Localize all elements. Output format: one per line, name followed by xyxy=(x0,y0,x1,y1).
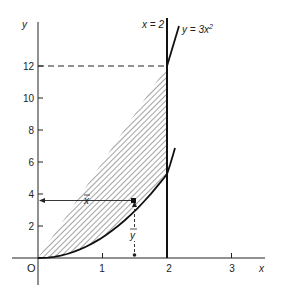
x-axis-label: x xyxy=(258,263,265,274)
tick-label-y-12: 12 xyxy=(23,61,35,72)
diagram: y x O 12 10 8 6 4 2 1 2 3 x = 2 y = 3x2 … xyxy=(0,0,283,295)
centroid-marker xyxy=(131,198,136,203)
tick-label-y-2: 2 xyxy=(28,221,34,232)
curve-label: y = 3x2 xyxy=(181,23,213,35)
shaded-region xyxy=(38,66,167,258)
xbar-arrowhead-icon xyxy=(39,198,45,203)
ybar-base-dot xyxy=(133,253,137,257)
tick-label-x-2: 2 xyxy=(166,263,172,274)
tick-label-y-10: 10 xyxy=(23,93,35,104)
tick-label-x-1: 1 xyxy=(99,263,105,274)
tick-label-y-6: 6 xyxy=(28,157,34,168)
origin-label: O xyxy=(27,262,36,274)
xbar-label: x xyxy=(83,195,90,206)
tick-label-y-4: 4 xyxy=(28,189,34,200)
line-label-x2: x = 2 xyxy=(141,19,164,30)
tick-label-x-3: 3 xyxy=(229,263,235,274)
y-ticks xyxy=(38,66,43,226)
ybar-label: y xyxy=(129,230,136,241)
tick-label-y-8: 8 xyxy=(28,125,34,136)
y-axis-label: y xyxy=(21,19,28,30)
curve-upper xyxy=(167,26,179,66)
